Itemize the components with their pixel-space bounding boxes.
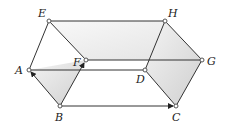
label-A: A <box>14 64 23 77</box>
label-G: G <box>207 55 216 68</box>
label-B: B <box>54 111 63 124</box>
prism-diagram: E H A F D G B C <box>0 0 228 127</box>
label-E: E <box>37 7 46 20</box>
label-C: C <box>172 111 181 124</box>
label-D: D <box>135 73 145 86</box>
label-H: H <box>167 7 178 20</box>
label-F: F <box>72 56 81 69</box>
